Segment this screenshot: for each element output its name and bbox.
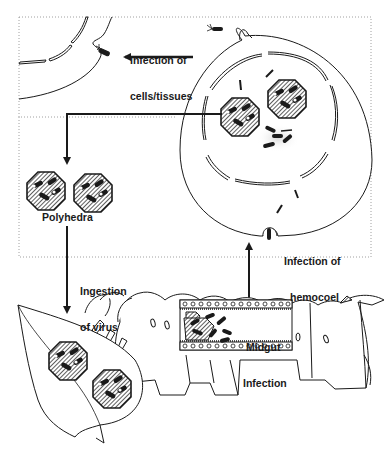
label-hemocoel: Infection of hemocoel <box>284 231 341 315</box>
label-infection-cells-line1: Infection of <box>130 54 192 66</box>
label-midgut: Midgut Infection <box>243 317 287 401</box>
virion-entering-icon <box>96 44 110 56</box>
infected-cell <box>180 28 372 240</box>
label-ingestion-line1: Ingestion <box>80 285 127 297</box>
label-ingestion: Ingestion of virus <box>80 261 127 345</box>
label-hemocoel-line1: Infection of <box>284 255 341 267</box>
label-hemocoel-line2: hemocoel <box>284 291 341 303</box>
label-midgut-line2: Infection <box>243 377 287 389</box>
free-virion-icon <box>207 24 223 31</box>
released-polyhedra <box>27 172 112 212</box>
label-midgut-line1: Midgut <box>243 341 287 353</box>
neighbor-cell <box>19 17 112 99</box>
label-ingestion-line2: of virus <box>80 321 127 333</box>
label-infection-cells-line2: cells/tissues <box>130 90 192 102</box>
label-infection-cells: Infection of cells/tissues <box>130 30 192 114</box>
polyhedron-in-nucleus <box>221 98 259 136</box>
label-polyhedra: Polyhedra <box>42 211 93 223</box>
polyhedron-in-nucleus <box>268 80 306 118</box>
